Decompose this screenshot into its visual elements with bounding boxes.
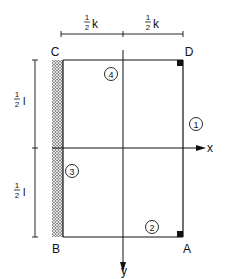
svg-text:k: k (153, 17, 160, 31)
svg-text:k: k (92, 17, 99, 31)
edge-marker-4: 4 (105, 68, 118, 81)
svg-text:1: 1 (15, 90, 20, 99)
svg-text:1: 1 (146, 13, 151, 22)
svg-text:1: 1 (193, 120, 198, 130)
x-axis-arrow-icon (196, 145, 206, 151)
svg-text:2: 2 (149, 223, 154, 233)
svg-text:3: 3 (69, 167, 74, 177)
corner-label-C: C (51, 45, 60, 59)
dim-top-left-label: 1 2 k (84, 13, 99, 32)
svg-text:l: l (23, 186, 25, 198)
edge-marker-1: 1 (190, 118, 203, 131)
corner-label-A: A (183, 242, 191, 256)
svg-text:2: 2 (146, 23, 151, 32)
dim-top-right-label: 1 2 k (145, 13, 160, 32)
svg-text:l: l (23, 95, 25, 107)
svg-text:4: 4 (108, 70, 113, 80)
left-dimension-line (32, 60, 38, 237)
x-axis-label: x (207, 141, 213, 155)
edge-marker-3: 3 (66, 165, 79, 178)
top-dimension-line (61, 31, 183, 37)
svg-text:2: 2 (15, 100, 20, 109)
corner-support-D (177, 60, 183, 66)
dim-left-top-label: 1 2 l (14, 90, 25, 109)
dim-left-bottom-label: 1 2 l (14, 181, 25, 200)
plate-diagram: 1 2 k 1 2 k 1 2 l 1 2 l C D B A x y 4 1 … (0, 0, 225, 279)
edge-marker-2: 2 (146, 221, 159, 234)
svg-text:2: 2 (15, 191, 20, 200)
corner-support-A (177, 231, 183, 237)
corner-label-B: B (52, 242, 60, 256)
y-axis-label: y (121, 264, 127, 278)
svg-text:1: 1 (15, 181, 20, 190)
corner-label-D: D (185, 45, 194, 59)
svg-text:1: 1 (85, 13, 90, 22)
svg-text:2: 2 (85, 23, 90, 32)
